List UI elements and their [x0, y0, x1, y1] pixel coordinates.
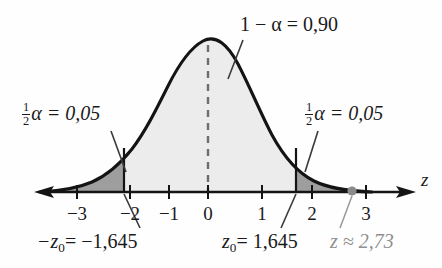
observed-value-label: z ≈ 2,73	[330, 231, 394, 251]
right-tail-area-label-text: α = 0,05	[314, 102, 383, 124]
critical-value-right-label: z0= 1,645	[222, 231, 298, 254]
right-tail-fraction: 1 2	[305, 101, 313, 128]
right-tail-fraction-numerator: 1	[305, 101, 313, 114]
center-area-label-text: 1 − α = 0,90	[240, 13, 338, 35]
tick-label-neg3: −3	[62, 203, 92, 225]
critical-right-value: = 1,645	[236, 230, 297, 252]
critical-left-subscript: 0	[58, 240, 65, 255]
figure-canvas: 1 − α = 0,90 1 2 α = 0,05 1 2 α = 0,05 −…	[0, 0, 442, 268]
left-tail-fraction: 1 2	[22, 101, 30, 128]
right-tail-area-label: 1 2 α = 0,05	[305, 101, 383, 128]
tick-label-neg2: −2	[115, 203, 145, 225]
left-tail-fraction-denominator: 2	[22, 114, 30, 128]
center-area-label: 1 − α = 0,90	[240, 14, 338, 34]
critical-value-left-label: −z0= −1,645	[37, 231, 137, 254]
critical-left-prefix: −z	[37, 230, 58, 252]
tick-label-0: 0	[193, 203, 223, 225]
left-tail-fraction-numerator: 1	[22, 101, 30, 114]
right-tail-fraction-denominator: 2	[305, 114, 313, 128]
critical-left-value: = −1,645	[65, 230, 138, 252]
tick-label-neg1: −1	[154, 203, 184, 225]
critical-right-prefix: z	[222, 230, 230, 252]
tick-label-2: 2	[297, 203, 327, 225]
normal-curve-diagram	[0, 0, 442, 268]
z-axis-label: z	[421, 170, 428, 189]
observed-value-dot	[347, 186, 356, 195]
left-tail-area-label: 1 2 α = 0,05	[22, 101, 100, 128]
leader-right-tail-label	[305, 131, 318, 172]
tick-label-3: 3	[351, 203, 381, 225]
leader-critical-right-label	[281, 194, 296, 228]
tick-label-1: 1	[247, 203, 277, 225]
left-tail-area-label-text: α = 0,05	[31, 102, 100, 124]
